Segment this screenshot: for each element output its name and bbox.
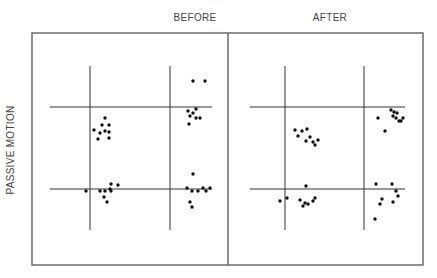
before-data-point xyxy=(188,200,191,203)
after-data-point xyxy=(399,119,402,122)
before-data-point xyxy=(105,200,108,203)
after-data-point xyxy=(305,127,308,130)
before-data-point xyxy=(201,186,204,189)
before-data-point xyxy=(191,172,194,175)
after-data-point xyxy=(394,189,397,192)
before-data-point xyxy=(103,189,106,192)
after-data-point xyxy=(285,196,288,199)
after-data-point xyxy=(316,138,319,141)
after-data-point xyxy=(394,116,397,119)
after-data-point xyxy=(311,199,314,202)
before-data-point xyxy=(194,107,197,110)
after-data-point xyxy=(396,194,399,197)
scatter-diagram xyxy=(0,0,437,278)
after-data-point xyxy=(313,196,316,199)
before-data-point xyxy=(92,128,95,131)
after-data-point xyxy=(395,111,398,114)
before-data-point xyxy=(109,182,112,185)
after-data-point xyxy=(313,143,316,146)
after-data-point xyxy=(391,200,394,203)
before-data-point xyxy=(186,109,189,112)
before-data-point xyxy=(187,122,190,125)
after-data-point xyxy=(392,110,395,113)
before-data-point xyxy=(188,114,191,117)
before-data-point xyxy=(84,189,87,192)
after-data-point xyxy=(389,108,392,111)
before-data-point xyxy=(98,189,101,192)
after-data-point xyxy=(301,204,304,207)
before-data-point xyxy=(191,111,194,114)
before-data-point xyxy=(198,116,201,119)
before-data-point xyxy=(96,137,99,140)
before-data-point xyxy=(103,116,106,119)
after-data-point xyxy=(303,201,306,204)
before-data-point xyxy=(185,186,188,189)
after-data-point xyxy=(304,184,307,187)
after-data-point xyxy=(391,114,394,117)
after-data-point xyxy=(293,128,296,131)
after-data-point xyxy=(390,182,393,185)
before-data-point xyxy=(194,116,197,119)
after-data-point xyxy=(278,199,281,202)
after-data-point xyxy=(304,139,307,142)
after-data-point xyxy=(311,140,314,143)
after-data-point xyxy=(378,202,381,205)
after-data-point xyxy=(380,197,383,200)
after-data-point xyxy=(374,182,377,185)
after-data-point xyxy=(373,217,376,220)
before-data-point xyxy=(190,205,193,208)
before-data-point xyxy=(100,123,103,126)
after-data-point xyxy=(376,116,379,119)
before-data-point xyxy=(98,131,101,134)
after-data-point xyxy=(296,134,299,137)
before-data-point xyxy=(107,123,110,126)
after-data-point xyxy=(306,202,309,205)
before-data-point xyxy=(103,129,106,132)
before-data-point xyxy=(109,189,112,192)
before-data-point xyxy=(203,79,206,82)
before-data-point xyxy=(116,183,119,186)
after-data-point xyxy=(308,135,311,138)
before-data-point xyxy=(196,189,199,192)
after-data-point xyxy=(383,129,386,132)
after-data-point xyxy=(401,116,404,119)
after-data-point xyxy=(300,129,303,132)
before-data-point xyxy=(102,195,105,198)
before-data-point xyxy=(208,186,211,189)
before-data-point xyxy=(204,189,207,192)
after-data-point xyxy=(298,198,301,201)
before-data-point xyxy=(190,189,193,192)
before-data-point xyxy=(107,136,110,139)
before-data-point xyxy=(191,79,194,82)
before-data-point xyxy=(107,130,110,133)
